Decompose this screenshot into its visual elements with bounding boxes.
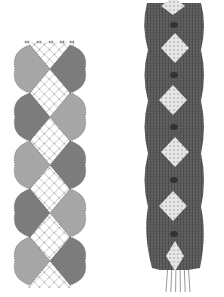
braid-crossing-2: [170, 72, 178, 78]
pin-icon-3b: [51, 41, 53, 43]
braid-crossing-1: [170, 22, 178, 28]
braid-crossing-4: [170, 177, 178, 183]
pin-icon-4: [60, 41, 62, 43]
pricking-diagram: [14, 41, 85, 288]
lace-photo: [144, 0, 204, 292]
pin-icon-2b: [39, 41, 41, 43]
braid-crossing-3: [170, 124, 178, 130]
pin-icon-4b: [62, 41, 64, 43]
pin-icon-2: [37, 41, 39, 43]
pin-icon-1b: [27, 41, 29, 43]
pin-icon-1: [25, 41, 27, 43]
pin-icon-5b: [72, 41, 74, 43]
braid-crossing-5: [170, 231, 178, 237]
figure-canvas: [0, 0, 224, 297]
pin-icon-5: [70, 41, 72, 43]
pin-icon-3: [49, 41, 51, 43]
